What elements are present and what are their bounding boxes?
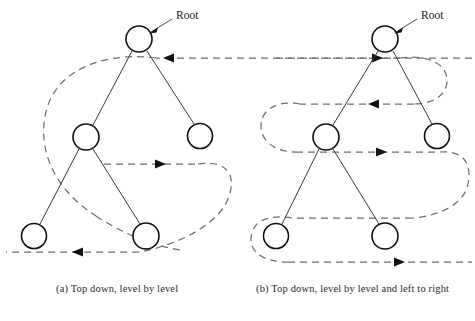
panel-b-segment-loop-right-upper [400, 57, 447, 104]
panel-b-node-level2-left [313, 124, 339, 150]
panel-b: Root [251, 9, 472, 267]
panel-a-node-leaf-right [133, 223, 159, 249]
panel-b-arrow-right-2 [376, 148, 387, 157]
panel-b-node-level2-right [425, 124, 450, 149]
panel-b-edge-root-right [393, 51, 432, 124]
panel-a-edge-root-left [93, 51, 132, 125]
panel-a-arrow-left-1 [163, 54, 174, 63]
panel-a-node-level2-right [188, 124, 213, 149]
panel-b-edge-l2-leafright [333, 149, 379, 224]
panel-b-segment-loop-left-upper [261, 103, 300, 152]
panel-b-edge-root-left [333, 51, 378, 125]
panel-b-caption: (b) Top down, level by level and left to… [256, 283, 449, 294]
panel-b-root-label: Root [421, 9, 444, 21]
panel-a-edge-l2-leafright [93, 149, 140, 224]
panel-a-caption: (a) Top down, level by level [56, 283, 178, 294]
panel-b-node-leaf-right [372, 223, 398, 249]
panel-a-node-level2-left [73, 124, 99, 150]
panel-b-edge-l2-leafleft [282, 149, 319, 224]
panel-b-node-root [372, 26, 398, 52]
panel-a-edge-root-right [147, 51, 194, 124]
panel-b-root-pointer-line [396, 19, 417, 32]
panel-a-node-leaf-left [22, 224, 47, 249]
panel-b-node-leaf-left [264, 224, 289, 249]
panel-a-root-label: Root [176, 9, 199, 21]
panel-b-arrow-left-1 [368, 100, 379, 109]
panel-a-edge-l2-leafleft [40, 149, 79, 224]
panel-a-arrow-left-2 [72, 248, 83, 257]
panel-b-segment-loop-right-lower [412, 152, 469, 218]
panel-a: Root [6, 9, 472, 257]
panel-b-arrow-right-3 [394, 258, 405, 267]
panel-a-node-root [126, 26, 152, 52]
figure-container: Root [0, 0, 475, 321]
panel-a-segment-wrap-to-level2 [44, 57, 156, 216]
panel-a-root-pointer-line [151, 19, 172, 32]
panel-a-arrow-right-1 [155, 160, 166, 169]
tree-traversal-diagram: Root [0, 0, 475, 321]
